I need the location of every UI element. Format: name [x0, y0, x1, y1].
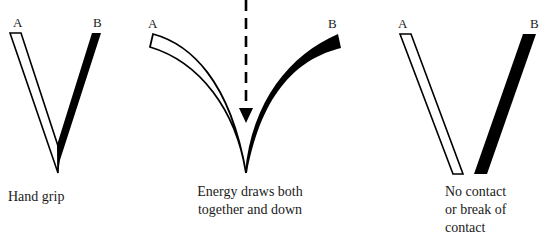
label-a: A	[398, 16, 408, 31]
strip-a-white	[400, 34, 463, 174]
caption-line: together and down	[198, 202, 302, 217]
label-a: A	[13, 15, 23, 30]
caption-line: or break of	[445, 202, 507, 217]
label-b: B	[530, 16, 539, 31]
caption-line: contact	[445, 220, 486, 235]
curve-a-white	[150, 34, 246, 173]
panel-energy: A B Energy draws both together and down	[148, 0, 341, 217]
caption-line: No contact	[445, 184, 506, 199]
panel-no-contact: A B No contact or break of contact	[398, 16, 539, 235]
arrow-down-icon	[239, 108, 253, 123]
diagram-canvas: A B Hand grip A B Energy draws both toge…	[0, 0, 547, 244]
strip-b-black	[474, 34, 536, 174]
caption-line: Hand grip	[8, 189, 64, 204]
caption-line: Energy draws both	[197, 184, 303, 199]
label-a: A	[148, 16, 158, 31]
label-b: B	[93, 15, 102, 30]
panel-hand-grip: A B Hand grip	[8, 15, 102, 204]
strip-a-white	[10, 33, 58, 173]
curve-b-black	[245, 34, 341, 173]
label-b: B	[328, 16, 337, 31]
strip-b-black	[57, 33, 101, 173]
